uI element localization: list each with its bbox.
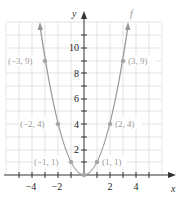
function-label: f bbox=[130, 8, 134, 19]
x-axis-arrow-icon bbox=[168, 172, 176, 178]
point-label: (−3, 9) bbox=[8, 56, 33, 66]
data-point bbox=[69, 160, 73, 164]
point-label: (1, 1) bbox=[102, 157, 122, 167]
x-axis-label: x bbox=[170, 183, 176, 194]
x-tick-label: 2 bbox=[108, 181, 113, 192]
curve-arrow-right-icon bbox=[125, 22, 131, 30]
y-tick-label: 6 bbox=[74, 93, 79, 104]
y-tick-label: 10 bbox=[69, 42, 79, 53]
point-label: (2, 4) bbox=[115, 119, 135, 129]
point-label: (−2, 4) bbox=[20, 119, 45, 129]
x-tick-label: −4 bbox=[26, 181, 37, 192]
x-tick-label: −2 bbox=[52, 181, 63, 192]
data-point bbox=[43, 59, 47, 63]
point-label: (3, 9) bbox=[128, 56, 148, 66]
data-point bbox=[82, 173, 86, 177]
y-axis-arrow-icon bbox=[81, 11, 87, 19]
data-point bbox=[56, 122, 60, 126]
y-axis-label: y bbox=[71, 8, 77, 19]
x-tick-label: 4 bbox=[134, 181, 139, 192]
data-point bbox=[108, 122, 112, 126]
data-point bbox=[95, 160, 99, 164]
point-label: (−1, 1) bbox=[34, 157, 59, 167]
y-tick-label: 4 bbox=[74, 119, 79, 130]
parabola-chart: −4 −2 2 4 2 4 6 8 10 x y f (−3, 9) (−2, … bbox=[0, 0, 178, 201]
y-tick-label: 8 bbox=[74, 68, 79, 79]
data-point bbox=[121, 59, 125, 63]
curve-arrow-left-icon bbox=[38, 22, 44, 30]
y-tick-label: 2 bbox=[74, 144, 79, 155]
